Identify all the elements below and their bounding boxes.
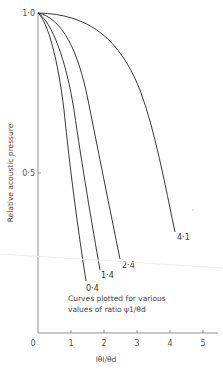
- curve-2-4: [38, 13, 120, 259]
- curve-1-4: [38, 13, 100, 270]
- curve-0-4: [38, 13, 86, 281]
- x-tick-3: 3: [134, 339, 139, 348]
- annotation-line-2: values of ratio ψ1/θd: [68, 305, 146, 314]
- x-tick-5: 5: [200, 339, 205, 348]
- y-axis-title: Relative acoustic pressure: [6, 123, 15, 222]
- x-tick-0: 0: [30, 339, 35, 348]
- x-tick-2: 2: [101, 339, 106, 348]
- stray-dot: [192, 209, 193, 210]
- curve-label-0-4: 0·4: [86, 284, 99, 293]
- x-ticks: [71, 330, 203, 333]
- x-axis-title: lθl/θd: [96, 355, 117, 364]
- scan-artifact: [0, 254, 223, 268]
- curve-label-1-4: 1·4: [101, 271, 114, 280]
- y-tick-mid-label: 0·5: [22, 169, 35, 178]
- curve-label-4-1: 4·1: [177, 233, 190, 242]
- y-tick-top: 1·0: [22, 9, 35, 18]
- annotation-line-1: Curves plotted for various: [68, 294, 166, 303]
- x-tick-1: 1: [68, 339, 73, 348]
- chart: 0 1 2 3 4 5 1·0 0·5 Relative acoustic pr…: [0, 0, 223, 372]
- x-tick-4: 4: [167, 339, 172, 348]
